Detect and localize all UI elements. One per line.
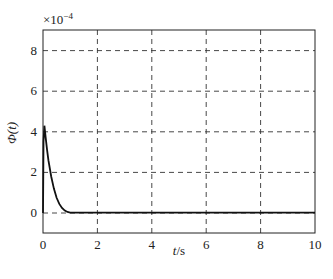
y-tick-labels: 02468 xyxy=(31,43,38,220)
y-multiplier: ×10−4 xyxy=(43,11,73,27)
y-axis-label: Φ(t) xyxy=(4,122,19,144)
chart: 02468 0246810 ×10−4 Φ(t) t/s xyxy=(0,0,333,279)
y-tick-label: 4 xyxy=(31,124,38,139)
y-tick-label: 8 xyxy=(31,43,38,58)
y-tick-label: 0 xyxy=(31,205,38,220)
grid-lines xyxy=(43,30,315,233)
x-tick-label: 4 xyxy=(149,237,156,252)
y-tick-label: 2 xyxy=(31,164,38,179)
x-tick-label: 10 xyxy=(309,237,322,252)
x-tick-label: 6 xyxy=(203,237,210,252)
y-tick-label: 6 xyxy=(31,83,38,98)
x-tick-label: 8 xyxy=(257,237,264,252)
data-line xyxy=(43,126,315,213)
x-tick-label: 2 xyxy=(94,237,101,252)
x-tick-label: 0 xyxy=(40,237,47,252)
x-axis-label: t/s xyxy=(173,243,185,258)
